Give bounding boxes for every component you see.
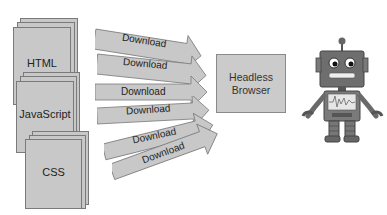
headless-browser-box: Headless Browser [216,54,286,113]
diagram: HTML JavaScript CSS Download Download Do… [0,0,387,215]
headless-browser-line2: Browser [229,84,273,97]
download-arrow-6 [112,122,232,192]
html-label: HTML [14,57,70,69]
robot-icon [300,36,385,144]
javascript-label: JavaScript [17,108,73,120]
headless-browser-line1: Headless [229,71,273,84]
css-label: CSS [26,166,81,178]
page-front: CSS [25,139,82,209]
